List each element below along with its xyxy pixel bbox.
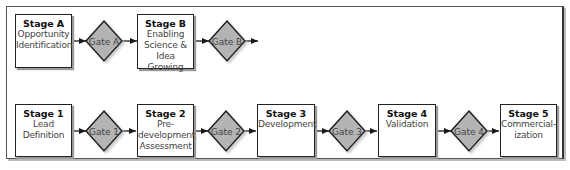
- gate-1-label: Gate 1: [89, 127, 119, 137]
- stage-A-box: Stage A Opportunity Identification: [15, 14, 72, 68]
- stage-5-title: Stage 5: [501, 108, 556, 119]
- stage-3-description: Development: [258, 119, 314, 130]
- stage-5-description: Commercial- ization: [501, 119, 556, 141]
- stage-A-title: Stage A: [16, 18, 71, 29]
- gate-4-label: Gate 4: [454, 127, 484, 137]
- stage-5-box: Stage 5 Commercial- ization: [500, 104, 557, 157]
- stage-1-title: Stage 1: [16, 108, 71, 119]
- stage-1-box: Stage 1 Lead Definition: [15, 104, 72, 157]
- stage-2-title: Stage 2: [138, 108, 193, 119]
- stage-2-description: Pre- development Assessment: [138, 119, 193, 152]
- stage-4-title: Stage 4: [379, 108, 435, 119]
- stage-3-title: Stage 3: [258, 108, 314, 119]
- stage-4-box: Stage 4 Validation: [378, 104, 436, 157]
- stage-A-description: Opportunity Identification: [16, 29, 71, 51]
- stage-gate-diagram: Gate A Gate B Gate 1 Gate 2 Gate 3 Gate …: [0, 0, 570, 170]
- gate-3-label: Gate 3: [332, 127, 362, 137]
- gate-A-label: Gate A: [89, 37, 120, 47]
- stage-B-box: Stage B Enabling Science & Idea Growing: [137, 14, 194, 69]
- stage-2-box: Stage 2 Pre- development Assessment: [137, 104, 194, 157]
- stage-B-description: Enabling Science & Idea Growing: [138, 29, 193, 73]
- stage-1-description: Lead Definition: [16, 119, 71, 141]
- stage-4-description: Validation: [379, 119, 435, 130]
- gate-2-label: Gate 2: [211, 127, 241, 137]
- gate-B-label: Gate B: [212, 37, 243, 47]
- stage-3-box: Stage 3 Development: [257, 104, 315, 157]
- stage-B-title: Stage B: [138, 18, 193, 29]
